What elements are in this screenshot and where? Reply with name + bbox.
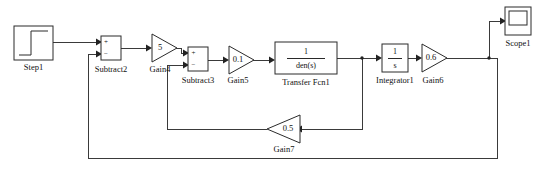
gain6-label: Gain6 [423, 75, 444, 85]
gain7-value: 0.5 [283, 123, 294, 133]
junction-dot-gain6-output [487, 56, 490, 59]
arrowhead-integrator1-in [376, 55, 382, 62]
gain4-label: Gain4 [150, 64, 172, 74]
gain6-value: 0.6 [426, 52, 437, 62]
gain5-value: 0.1 [233, 54, 244, 64]
block-gain6[interactable]: 0.6 Gain6 [422, 44, 447, 85]
subtract3-label: Subtract3 [182, 75, 215, 85]
transfer-fcn1-denominator: den(s) [296, 61, 316, 70]
block-gain7[interactable]: 0.5 Gain7 [267, 115, 300, 154]
arrowhead-gain4-in [146, 45, 152, 52]
block-transfer-fcn1[interactable]: 1 den(s) Transfer Fcn1 [275, 42, 337, 87]
junction-dot-transferfcn-output [360, 56, 363, 59]
integrator1-denominator: s [393, 61, 396, 70]
wire-junction-to-scope1 [489, 21, 500, 58]
gain4-body[interactable] [152, 34, 177, 62]
integrator1-numerator: 1 [393, 47, 397, 56]
scope-display-icon [509, 11, 527, 25]
gain5-label: Gain5 [228, 75, 249, 85]
subtract3-plus-sign: + [192, 49, 196, 57]
block-scope1[interactable]: Scope1 [505, 7, 531, 48]
subtract3-minus-sign: − [192, 61, 196, 69]
subtract2-minus-sign: − [104, 50, 108, 58]
block-diagram-svg: Step1 + − Subtract2 5 Gain4 + − Subtract… [0, 0, 543, 169]
transfer-fcn1-label: Transfer Fcn1 [282, 77, 330, 87]
scope1-label: Scope1 [505, 38, 530, 48]
step1-label: Step1 [24, 62, 43, 72]
block-gain4[interactable]: 5 Gain4 [150, 34, 177, 74]
arrowhead-gain5-in [223, 57, 229, 64]
block-step1[interactable]: Step1 [14, 26, 53, 72]
block-gain5[interactable]: 0.1 Gain5 [228, 46, 254, 85]
arrowhead-transferfcn1-in [269, 57, 275, 64]
gain7-label: Gain7 [274, 144, 295, 154]
block-diagram-canvas: Step1 + − Subtract2 5 Gain4 + − Subtract… [0, 0, 543, 169]
subtract2-label: Subtract2 [95, 64, 128, 74]
subtract2-plus-sign: + [104, 38, 108, 46]
integrator1-label: Integrator1 [376, 75, 414, 85]
arrowhead-gain6-in [416, 55, 422, 62]
transfer-fcn1-numerator: 1 [304, 47, 308, 56]
block-integrator1[interactable]: 1 s Integrator1 [376, 44, 414, 85]
gain4-value: 5 [158, 42, 162, 52]
